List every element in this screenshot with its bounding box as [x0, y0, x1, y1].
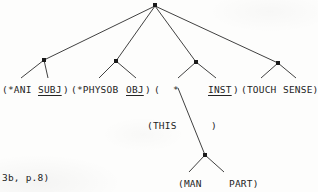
label-obj-paren: ) — [145, 84, 151, 95]
edge-root-to-physob — [116, 6, 155, 61]
ani-node-dot — [42, 58, 46, 62]
label-star: * — [173, 84, 179, 95]
label-sense: SENSE) — [283, 84, 318, 95]
label-inst: INST — [208, 84, 232, 95]
edge-physob-to-physob-leaf — [99, 61, 116, 78]
edge-touch-to-sense-leaf — [278, 63, 296, 78]
label-subj-paren: ) — [63, 84, 69, 95]
label-this: (THIS — [147, 120, 177, 131]
edge-inst-to-star-leaf — [178, 62, 196, 78]
edge-star-to-man-node — [178, 88, 205, 155]
label-subj: SUBJ — [38, 84, 62, 95]
label-obj: OBJ — [126, 84, 144, 95]
label-man: (MAN — [178, 178, 202, 189]
figure-caption: 3b, p.8) — [2, 172, 49, 183]
scanned-figure-page: (*ANI SUBJ ) (*PHYSOB OBJ ) ( * INST ) (… — [0, 0, 318, 192]
label-inst-paren: ) — [233, 84, 239, 95]
label-ani: (*ANI — [2, 84, 32, 95]
label-physob: (*PHYSOB — [71, 84, 118, 95]
touch-node-dot — [276, 61, 280, 65]
edge-root-to-inst — [155, 6, 196, 62]
edge-root-to-touch — [155, 6, 278, 63]
edge-inst-to-inst-leaf — [196, 62, 216, 78]
edge-root-to-ani — [44, 6, 155, 60]
label-this-paren: ) — [211, 120, 217, 131]
label-part: PART) — [229, 178, 259, 189]
label-open-paren: ( — [154, 84, 160, 95]
edge-man-to-part-leaf — [205, 155, 224, 172]
edge-touch-to-touch-leaf — [261, 63, 278, 78]
label-touch: (TOUCH — [241, 84, 277, 95]
edge-ani-to-subj-leaf — [44, 60, 48, 78]
man-node-dot — [203, 153, 207, 157]
edge-man-to-man-leaf — [189, 155, 205, 172]
edge-ani-to-ani-leaf — [21, 60, 44, 78]
inst-node-dot — [194, 60, 198, 64]
physob-node-dot — [114, 59, 118, 63]
parse-tree-graphic — [0, 0, 318, 192]
root-node-dot — [153, 3, 157, 7]
edge-physob-to-obj-leaf — [116, 61, 136, 78]
